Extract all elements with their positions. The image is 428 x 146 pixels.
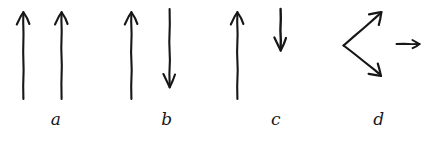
panel-c-drawing bbox=[222, 0, 330, 104]
arrow-a-2 bbox=[55, 12, 68, 99]
panel-b-drawing bbox=[112, 0, 222, 104]
arrow-b-1 bbox=[125, 12, 138, 99]
panel-label-d: d bbox=[330, 104, 428, 134]
arrow-b-2 bbox=[163, 9, 175, 87]
arrow-d-result bbox=[397, 40, 420, 48]
panel-a-drawing bbox=[0, 0, 112, 104]
panel-c: c bbox=[222, 0, 330, 146]
panel-label-c: c bbox=[222, 104, 346, 134]
arrow-d-upper bbox=[344, 12, 382, 46]
arrow-c-2 bbox=[274, 9, 286, 51]
arrow-a-1 bbox=[17, 12, 30, 99]
vector-arrow-diagram: a b bbox=[0, 0, 428, 146]
panel-a: a bbox=[0, 0, 112, 146]
arrow-d-lower bbox=[344, 46, 381, 77]
panel-d-drawing bbox=[330, 0, 428, 104]
panel-d: d bbox=[330, 0, 428, 146]
panel-b: b bbox=[112, 0, 222, 146]
arrow-c-1 bbox=[231, 12, 244, 99]
